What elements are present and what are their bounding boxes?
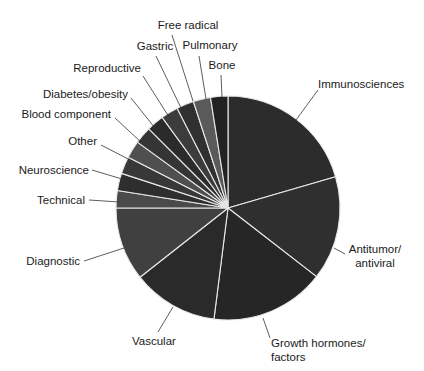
leader-line xyxy=(101,145,130,160)
slice-label: Other xyxy=(68,135,97,147)
leader-line xyxy=(115,118,142,143)
slice-label: Antitumor/antiviral xyxy=(349,243,402,269)
slice-label: Reproductive xyxy=(73,62,141,74)
slice-label: Pulmonary xyxy=(183,39,238,51)
pie-slices xyxy=(116,96,340,320)
slice-label: Free radical xyxy=(158,19,219,31)
leader-line xyxy=(263,318,270,338)
leader-line xyxy=(221,75,222,97)
leader-line xyxy=(143,76,169,117)
slice-label: Diabetes/obesity xyxy=(43,88,128,100)
leader-line xyxy=(131,98,155,128)
leader-line xyxy=(334,248,345,254)
leader-line xyxy=(296,90,318,120)
leader-line xyxy=(84,248,124,261)
slice-label: Immunosciences xyxy=(318,78,405,90)
slice-label: Neuroscience xyxy=(19,164,89,176)
slice-label: Vascular xyxy=(132,335,176,347)
leader-line xyxy=(199,56,206,99)
leader-line xyxy=(158,307,173,332)
slice-label: Blood component xyxy=(21,108,111,120)
leader-line xyxy=(89,200,119,202)
slice-label: Bone xyxy=(209,59,236,71)
leader-line xyxy=(156,56,181,108)
slice-label: Growth hormones/factors xyxy=(271,337,366,363)
pie-chart: ImmunosciencesAntitumor/antiviralGrowth … xyxy=(0,0,424,371)
slice-label: Technical xyxy=(37,194,85,206)
slice-label: Diagnostic xyxy=(26,255,80,267)
leader-line xyxy=(92,170,122,179)
slice-label: Gastric xyxy=(137,40,174,52)
